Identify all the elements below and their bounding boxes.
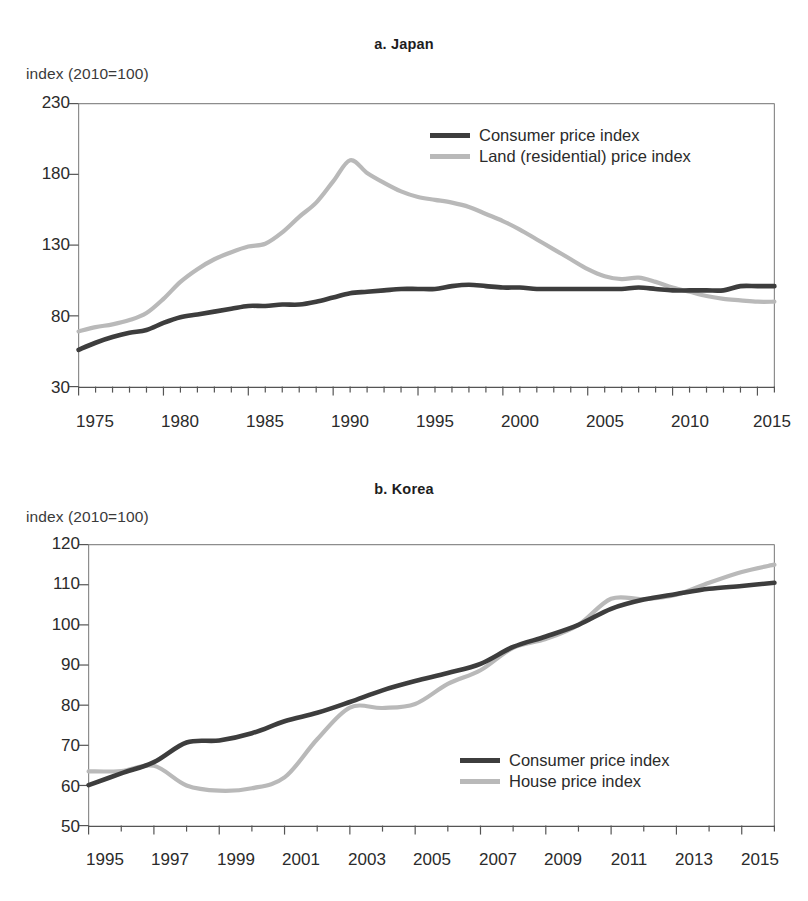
panel-title-japan: a. Japan	[0, 36, 808, 52]
axis-ticks-korea	[79, 545, 774, 835]
x-tick-japan-1990: 1990	[331, 412, 369, 432]
x-tick-korea-2009: 2009	[544, 850, 582, 870]
panel-title-korea: b. Korea	[0, 481, 808, 497]
legend-swatch-dark-korea	[460, 758, 500, 763]
y-tick-korea-100: 100	[18, 615, 80, 635]
y-tick-korea-70: 70	[18, 736, 80, 756]
y-tick-korea-90: 90	[18, 655, 80, 675]
x-tick-korea-2013: 2013	[675, 850, 713, 870]
x-tick-korea-2015: 2015	[741, 850, 779, 870]
y-tick-korea-110: 110	[18, 574, 80, 594]
y-tick-japan-230: 230	[18, 93, 70, 113]
y-tick-korea-120: 120	[18, 534, 80, 554]
x-tick-korea-2005: 2005	[413, 850, 451, 870]
chart-canvas-korea	[76, 544, 777, 839]
y-tick-japan-80: 80	[18, 307, 70, 327]
legend-swatch-dark-japan	[430, 133, 470, 138]
legend-item-consumer-price-index-japan: Consumer price index	[430, 125, 691, 146]
series-line-consumer-price-index-korea	[89, 583, 775, 785]
legend-korea: Consumer price index House price index	[460, 750, 670, 792]
x-tick-japan-1995: 1995	[416, 412, 454, 432]
y-tick-korea-80: 80	[18, 696, 80, 716]
legend-swatch-light-korea	[460, 779, 500, 784]
y-axis-unit-japan: index (2010=100)	[26, 65, 149, 83]
x-tick-korea-2001: 2001	[282, 850, 320, 870]
legend-item-land-price-index-japan: Land (residential) price index	[430, 146, 691, 167]
y-axis-unit-korea: index (2010=100)	[26, 508, 149, 526]
x-tick-japan-2010: 2010	[671, 412, 709, 432]
x-tick-japan-1975: 1975	[76, 412, 114, 432]
series-line-land-residential-price-index	[79, 160, 775, 331]
x-tick-korea-1997: 1997	[151, 850, 189, 870]
panel-japan: a. Japan index (2010=100) 230 180 130 80…	[0, 0, 808, 460]
y-tick-japan-30: 30	[18, 378, 70, 398]
legend-label-land-price-index-japan: Land (residential) price index	[479, 148, 691, 165]
series-line-consumer-price-index-japan	[79, 285, 775, 350]
legend-label-house-price-index-korea: House price index	[509, 773, 641, 790]
legend-item-consumer-price-index-korea: Consumer price index	[460, 750, 670, 771]
x-tick-korea-2003: 2003	[348, 850, 386, 870]
x-tick-korea-2007: 2007	[479, 850, 517, 870]
y-tick-japan-130: 130	[18, 235, 70, 255]
plot-area-korea	[88, 544, 775, 827]
x-tick-japan-2015: 2015	[753, 412, 791, 432]
legend-label-consumer-price-index-korea: Consumer price index	[509, 752, 670, 769]
x-tick-japan-1980: 1980	[161, 412, 199, 432]
panel-korea: b. Korea index (2010=100) 120 110 100 90…	[0, 460, 808, 901]
legend-label-consumer-price-index-japan: Consumer price index	[479, 127, 640, 144]
legend-swatch-light-japan	[430, 154, 470, 159]
x-tick-japan-1985: 1985	[246, 412, 284, 432]
y-tick-korea-50: 50	[18, 817, 80, 837]
y-tick-korea-60: 60	[18, 777, 80, 797]
legend-japan: Consumer price index Land (residential) …	[430, 125, 691, 167]
x-tick-korea-1995: 1995	[86, 850, 124, 870]
y-tick-japan-180: 180	[18, 164, 70, 184]
x-tick-korea-2011: 2011	[611, 850, 648, 870]
legend-item-house-price-index-korea: House price index	[460, 771, 670, 792]
x-tick-korea-1999: 1999	[217, 850, 255, 870]
x-tick-japan-2005: 2005	[586, 412, 624, 432]
x-tick-japan-2000: 2000	[501, 412, 539, 432]
